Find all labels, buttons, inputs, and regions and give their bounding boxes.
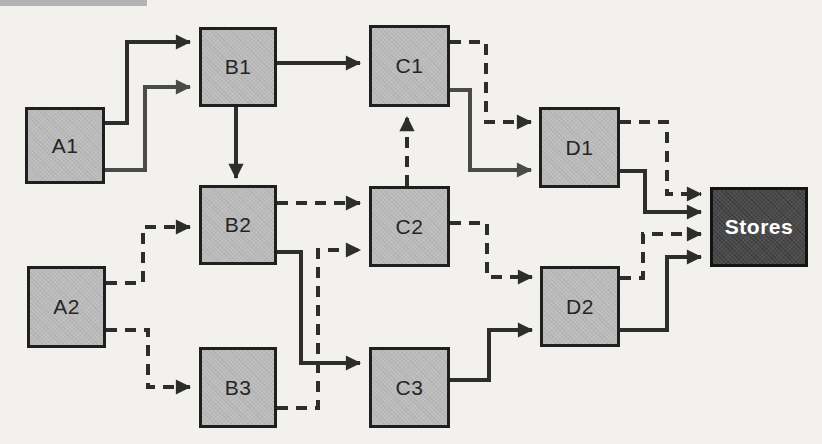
edge-D1-Stores-solid xyxy=(620,171,701,212)
scan-artifact-bar xyxy=(0,0,147,6)
edge-A1-B1-solid xyxy=(105,42,190,123)
node-label-C3: C3 xyxy=(396,376,424,400)
node-label-C1: C1 xyxy=(396,54,424,78)
edge-D1-Stores-dashed xyxy=(620,122,701,194)
edge-A2-B2-dashed xyxy=(106,227,190,283)
node-B3: B3 xyxy=(199,347,277,428)
edge-C1-D1-dashed xyxy=(450,42,531,122)
node-label-C2: C2 xyxy=(396,215,424,239)
node-C1: C1 xyxy=(369,25,450,107)
edge-C3-D2-solid xyxy=(450,330,532,380)
node-label-B3: B3 xyxy=(225,376,252,400)
edge-B3-C2-dashed xyxy=(277,250,360,408)
node-label-B2: B2 xyxy=(225,213,252,237)
flow-diagram: A1A2B1B2B3C1C2C3D1D2Stores xyxy=(0,0,822,444)
node-label-A2: A2 xyxy=(53,295,80,319)
node-A2: A2 xyxy=(27,266,106,348)
node-label-D2: D2 xyxy=(566,295,594,319)
node-B2: B2 xyxy=(199,185,277,265)
edge-C1-D1-solid xyxy=(450,90,531,170)
node-label-D1: D1 xyxy=(566,136,594,160)
edge-C2-D2-dashed xyxy=(450,223,532,277)
node-label-A1: A1 xyxy=(52,134,79,158)
node-label-Stores: Stores xyxy=(725,215,793,239)
node-D1: D1 xyxy=(539,107,620,188)
node-C2: C2 xyxy=(369,186,450,267)
node-label-B1: B1 xyxy=(225,55,252,79)
edge-A2-B3-dashed xyxy=(106,330,190,387)
edge-D2-Stores-solid xyxy=(620,257,701,330)
node-C3: C3 xyxy=(369,347,450,428)
node-Stores: Stores xyxy=(710,187,808,267)
node-A1: A1 xyxy=(25,107,105,184)
node-D2: D2 xyxy=(540,266,620,347)
edge-A1-B1-solid xyxy=(105,87,190,170)
node-B1: B1 xyxy=(199,27,277,107)
